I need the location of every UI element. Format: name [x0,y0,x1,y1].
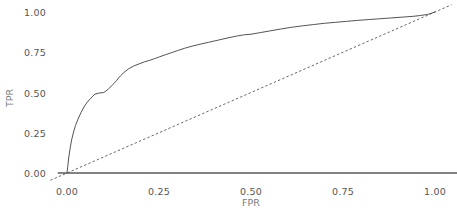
roc-chart-figure: 0.00 0.25 0.50 0.75 1.00 0.00 0.25 0.50 … [0,0,457,212]
y-tick-label-0: 0.00 [18,168,46,179]
x-tick-label-0: 0.00 [56,186,78,197]
x-axis-title: FPR [242,197,260,208]
x-tick-label-1: 0.25 [148,186,170,197]
x-tick-label-4: 1.00 [424,186,446,197]
plot-series-group [50,5,457,180]
roc-plot-canvas [0,0,457,212]
y-tick-label-4: 1.00 [18,7,46,18]
y-tick-label-3: 0.75 [18,47,46,58]
chance-diagonal-line [50,5,451,180]
y-axis-title: TPR [4,89,15,107]
x-tick-label-2: 0.50 [240,186,262,197]
y-tick-label-2: 0.50 [18,87,46,98]
y-tick-label-1: 0.25 [18,127,46,138]
x-tick-label-3: 0.75 [332,186,354,197]
